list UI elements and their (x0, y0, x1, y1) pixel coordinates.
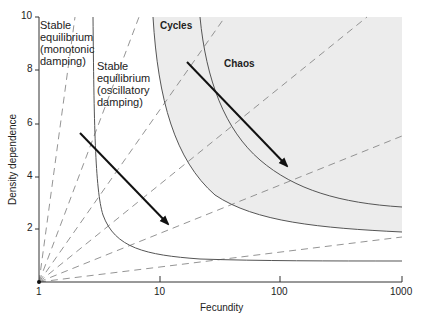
label-line: (oscillatory (97, 84, 150, 96)
xtick-1: 1 (36, 286, 42, 297)
label-cycles: Cycles (160, 20, 192, 32)
x-axis-label: Fecundity (200, 302, 243, 314)
label-line: damping) (40, 55, 94, 67)
y-axis-label: Density dependence (7, 114, 18, 205)
label-monotonic: Stable equilibrium (monotonic damping) (40, 19, 94, 67)
label-line: Stable (97, 60, 150, 72)
label-line: equilibrium (97, 72, 150, 84)
ytick-6: 6 (27, 117, 33, 128)
label-line: Stable (40, 19, 94, 31)
arrow-left (80, 133, 168, 224)
xtick-100: 100 (271, 286, 288, 297)
label-line: (monotonic (40, 43, 94, 55)
ytick-10: 10 (21, 10, 32, 21)
label-chaos: Chaos (224, 58, 255, 70)
shaded-region (153, 17, 402, 232)
ytick-2: 2 (27, 222, 33, 233)
xtick-1000: 1000 (390, 286, 412, 297)
label-oscillatory: Stable equilibrium (oscillatory damping) (97, 60, 150, 108)
ytick-8: 8 (27, 63, 33, 74)
ytick-4: 4 (27, 170, 33, 181)
xtick-10: 10 (154, 286, 165, 297)
label-line: equilibrium (40, 31, 94, 43)
label-line: damping) (97, 96, 150, 108)
